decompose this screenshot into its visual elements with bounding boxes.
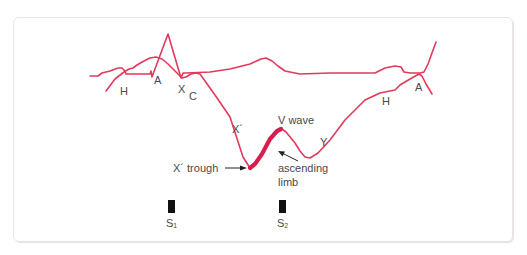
ascending-limb-highlight [250, 129, 281, 168]
label-a-right: A [415, 81, 423, 93]
label-y: Y [320, 136, 328, 148]
label-h-right: H [382, 95, 390, 107]
ascending-limb-arrow-line [282, 153, 298, 161]
s2-marker [279, 200, 286, 213]
label-a-left: A [154, 74, 162, 86]
label-ascending: ascending [278, 162, 328, 174]
label-limb: limb [278, 176, 298, 188]
label-h-left: H [120, 85, 128, 97]
s1-marker [168, 200, 175, 213]
label-s2: S2 [277, 217, 288, 229]
jvp-diagram: H A X C X´ V wave Y H A X´ trough ascend… [0, 0, 527, 255]
label-s1: S1 [166, 217, 177, 229]
label-x: X [178, 83, 186, 95]
label-x-trough: X´ trough [173, 162, 218, 174]
label-c: C [189, 90, 197, 102]
label-x-prime: X´ [232, 123, 243, 135]
x-trough-arrowhead-icon [240, 166, 247, 171]
label-v-wave: V wave [278, 114, 314, 126]
ecg-trace [90, 34, 436, 78]
